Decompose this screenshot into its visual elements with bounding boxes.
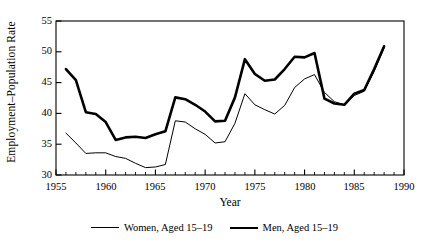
y-axis-major-ticks xyxy=(56,21,62,175)
chart-legend: Women, Aged 15–19 Men, Aged 15–19 xyxy=(0,222,429,233)
series-line-women xyxy=(66,48,384,168)
x-axis-major-ticks xyxy=(56,170,404,176)
x-axis-title: Year xyxy=(56,196,404,208)
legend-line-swatch-women-icon xyxy=(91,227,119,228)
legend-label-men: Men, Aged 15–19 xyxy=(263,222,339,233)
legend-line-swatch-men-icon xyxy=(230,227,258,229)
legend-label-women: Women, Aged 15–19 xyxy=(124,222,213,233)
legend-entry-men: Men, Aged 15–19 xyxy=(230,222,339,233)
chart-figure: Employment–Population Rate 55 50 45 40 3… xyxy=(0,0,429,247)
legend-entry-women: Women, Aged 15–19 xyxy=(91,222,213,233)
series-line-men xyxy=(66,46,384,140)
plot-area xyxy=(0,0,429,247)
